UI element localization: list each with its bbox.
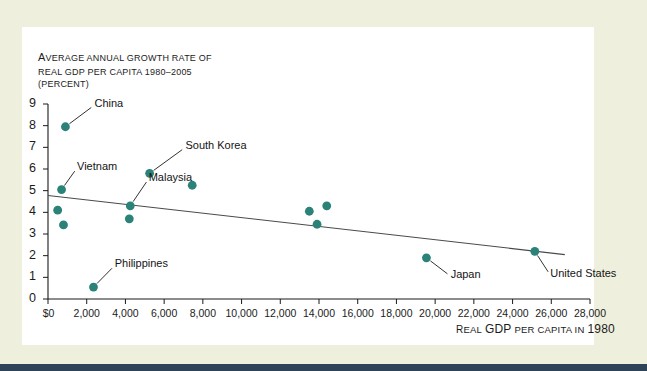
- x-tick-label: 22,000: [458, 307, 490, 319]
- point-label-vietnam: Vietnam: [77, 160, 117, 172]
- point-label-philippines: Philippines: [115, 257, 168, 269]
- data-point-japan[interactable]: [422, 253, 431, 262]
- x-tick-label: 28,000: [574, 307, 606, 319]
- bottom-rule: [0, 364, 647, 371]
- label-leader-line: [64, 171, 74, 185]
- label-leader-line: [154, 150, 183, 171]
- plot-area: 0123456789$02,0004,0006,0008,00010,00012…: [48, 104, 590, 299]
- x-tick-label: 10,000: [226, 307, 258, 319]
- y-tick-label: 3: [20, 226, 36, 240]
- y-tick-label: 7: [20, 139, 36, 153]
- data-point[interactable]: [53, 206, 62, 215]
- chart-title: AVERAGE ANNUAL GROWTH RATE OF REAL GDP P…: [38, 50, 298, 91]
- point-label-south-korea: South Korea: [185, 139, 246, 151]
- data-point-vietnam[interactable]: [57, 185, 66, 194]
- point-label-malaysia: Malaysia: [149, 171, 192, 183]
- label-leader-line: [69, 107, 91, 123]
- y-tick-label: 1: [20, 269, 36, 283]
- data-point-malaysia[interactable]: [126, 201, 135, 210]
- y-tick-label: 5: [20, 183, 36, 197]
- data-point[interactable]: [59, 221, 68, 230]
- data-point[interactable]: [125, 214, 134, 223]
- chart-title-line-2: REAL GDP PER CAPITA 1980–2005: [38, 66, 298, 79]
- data-point[interactable]: [305, 207, 314, 216]
- label-leader-line: [538, 256, 549, 272]
- x-tick-label: $0: [43, 307, 55, 319]
- axis-lines: [48, 104, 590, 299]
- trend-line: [48, 195, 565, 254]
- data-point-united-states[interactable]: [530, 247, 539, 256]
- y-tick-label: 0: [20, 291, 36, 305]
- y-tick-label: 6: [20, 161, 36, 175]
- x-tick-label: 16,000: [342, 307, 374, 319]
- label-leader-line: [133, 182, 146, 202]
- data-point[interactable]: [322, 201, 331, 210]
- x-axis-caption: REAL GDP PER CAPITA IN 1980: [456, 322, 615, 336]
- x-tick-label: 8,000: [190, 307, 216, 319]
- chart-title-line-3: (PERCENT): [38, 78, 298, 91]
- x-tick-label: 14,000: [303, 307, 335, 319]
- x-tick-label: 12,000: [264, 307, 296, 319]
- data-point-china[interactable]: [61, 122, 70, 131]
- y-tick-label: 9: [20, 96, 36, 110]
- point-label-japan: Japan: [451, 268, 481, 280]
- y-tick-label: 8: [20, 118, 36, 132]
- point-label-china: China: [94, 97, 123, 109]
- x-tick-label: 4,000: [112, 307, 138, 319]
- y-tick-label: 4: [20, 204, 36, 218]
- chart-title-line-1: AVERAGE ANNUAL GROWTH RATE OF: [38, 50, 298, 66]
- data-point-philippines[interactable]: [89, 283, 98, 292]
- label-leader-line: [430, 261, 447, 274]
- point-label-united-states: United States: [550, 267, 616, 279]
- scatter-svg: [48, 104, 590, 299]
- label-leader-line: [97, 268, 112, 283]
- x-tick-label: 18,000: [380, 307, 412, 319]
- x-tick-label: 20,000: [419, 307, 451, 319]
- data-point[interactable]: [313, 220, 322, 229]
- x-tick-label: 26,000: [535, 307, 567, 319]
- y-tick-label: 2: [20, 248, 36, 262]
- figure-root: AVERAGE ANNUAL GROWTH RATE OF REAL GDP P…: [0, 0, 647, 371]
- x-tick-label: 6,000: [151, 307, 177, 319]
- x-tick-label: 2,000: [74, 307, 100, 319]
- x-tick-label: 24,000: [497, 307, 529, 319]
